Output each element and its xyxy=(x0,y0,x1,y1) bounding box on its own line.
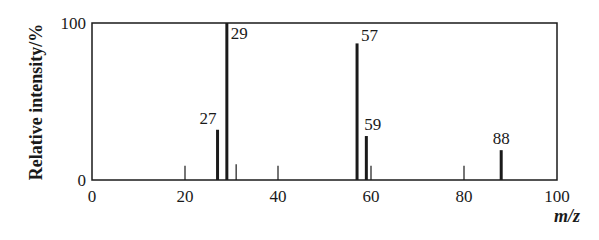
plot-frame xyxy=(92,23,557,180)
y-tick-label: 0 xyxy=(78,171,87,190)
peaks xyxy=(185,23,501,180)
labels: 02040608010001002729575988 xyxy=(61,14,570,206)
peak-label-57: 57 xyxy=(361,26,379,45)
peak-label-29: 29 xyxy=(231,24,248,43)
x-tick-label: 40 xyxy=(270,187,287,206)
peak-label-27: 27 xyxy=(200,109,218,128)
x-axis-title: m/z xyxy=(554,206,580,226)
x-tick-label: 80 xyxy=(456,187,473,206)
y-tick-label: 100 xyxy=(61,14,87,33)
peak-label-88: 88 xyxy=(493,129,510,148)
x-tick-label: 20 xyxy=(177,187,194,206)
mass-spectrum-chart: 02040608010001002729575988 Relative inte… xyxy=(0,0,599,240)
peak-label-59: 59 xyxy=(364,115,381,134)
x-tick-label: 0 xyxy=(88,187,97,206)
y-axis-title: Relative intensity/% xyxy=(26,24,46,180)
plot-border xyxy=(92,23,557,180)
x-tick-label: 60 xyxy=(363,187,380,206)
x-tick-label: 100 xyxy=(544,187,570,206)
